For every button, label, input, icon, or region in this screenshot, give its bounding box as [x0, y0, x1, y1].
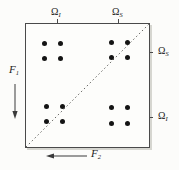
- f2-axis-label: F2: [91, 148, 101, 162]
- f1-subscript: 1: [16, 69, 19, 76]
- f1-letter: F: [9, 63, 16, 75]
- f2-left-arrow-icon: [46, 151, 88, 161]
- cross-peak-bottom-right-dot: [109, 121, 114, 126]
- cross-peak-top-left-dot: [42, 41, 47, 46]
- omega-subscript: I: [165, 115, 167, 122]
- top-axis-label-omega-I: ΩI: [51, 7, 61, 20]
- diagonal-peak-bottom-left-dot: [44, 104, 49, 109]
- nmr-2d-spectrum-figure: ΩI ΩS ΩS ΩI F1 F2: [0, 0, 179, 170]
- diagonal-peak-top-right-dot: [109, 55, 114, 60]
- diagonal-peak-top-right-dot: [125, 55, 130, 60]
- diagonal-peak-bottom-left-dot: [60, 104, 65, 109]
- right-tick-omega-I: [149, 117, 153, 118]
- f2-letter: F: [91, 147, 98, 159]
- cross-peak-bottom-right-dot: [125, 121, 130, 126]
- f1-axis-label: F1: [9, 64, 19, 78]
- cross-peak-bottom-right-dot: [125, 105, 130, 110]
- f2-subscript: 2: [98, 153, 101, 160]
- cross-peak-bottom-right-dot: [109, 105, 114, 110]
- omega-subscript: I: [58, 11, 60, 18]
- omega-subscript: S: [165, 50, 168, 57]
- diagonal-peak-bottom-left-dot: [44, 119, 49, 124]
- right-axis-label-omega-I: ΩI: [158, 111, 168, 124]
- diagonal-peak-top-right-dot: [109, 40, 114, 45]
- f1-down-arrow-icon: [10, 84, 20, 120]
- omega-subscript: S: [119, 11, 122, 18]
- cross-peak-top-left-dot: [42, 56, 47, 61]
- top-axis-label-omega-S: ΩS: [112, 7, 123, 20]
- cross-peak-top-left-dot: [58, 56, 63, 61]
- right-axis-label-omega-S: ΩS: [158, 46, 169, 59]
- diagonal-peak-top-right-dot: [125, 40, 130, 45]
- right-tick-omega-S: [149, 52, 153, 53]
- cross-peak-top-left-dot: [58, 41, 63, 46]
- diagonal-peak-bottom-left-dot: [60, 119, 65, 124]
